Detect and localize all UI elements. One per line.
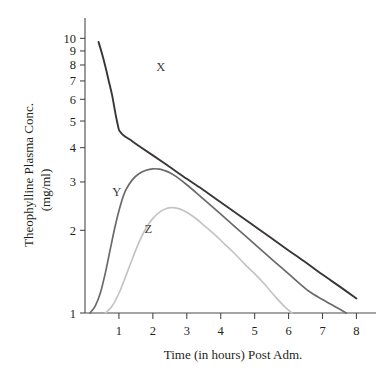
x-tick-label: 6 [285, 324, 291, 338]
curve-label-x: X [156, 60, 165, 74]
data-curves [90, 42, 356, 313]
x-tick-label: 5 [252, 324, 258, 338]
curve-labels: XYZ [112, 60, 165, 236]
curve-z [105, 208, 292, 313]
y-tick-label: 7 [70, 74, 76, 88]
x-tick-label: 4 [218, 324, 225, 338]
y-tick-label: 8 [70, 58, 76, 72]
y-axis-title-line1: Theophylline Plasma Conc. [21, 103, 36, 247]
x-axis-title: Time (in hours) Post Adm. [164, 347, 303, 362]
y-axis-title-line2: (mg/ml) [38, 169, 53, 212]
y-tick-label: 10 [64, 32, 77, 46]
x-tick-label: 3 [184, 324, 190, 338]
chart-figure: 12345678910 12345678 XYZ Time (in hours)… [0, 0, 390, 375]
curve-label-y: Y [112, 185, 121, 199]
x-tick-label: 8 [353, 324, 359, 338]
curve-x [99, 42, 357, 298]
x-tick-label: 1 [116, 324, 122, 338]
curve-y [90, 169, 346, 313]
plot-canvas: 12345678910 12345678 XYZ Time (in hours)… [0, 0, 390, 375]
curve-label-z: Z [144, 222, 152, 236]
y-axis-ticks: 12345678910 [64, 32, 86, 321]
y-tick-label: 4 [70, 141, 77, 155]
y-tick-label: 3 [70, 175, 76, 189]
y-tick-label: 9 [70, 44, 76, 58]
x-axis-ticks: 12345678 [116, 313, 360, 338]
y-tick-label: 5 [70, 115, 76, 129]
y-tick-label: 1 [70, 307, 76, 321]
y-tick-label: 2 [70, 224, 76, 238]
x-tick-label: 2 [150, 324, 156, 338]
x-tick-label: 7 [319, 324, 325, 338]
y-tick-label: 6 [70, 93, 76, 107]
